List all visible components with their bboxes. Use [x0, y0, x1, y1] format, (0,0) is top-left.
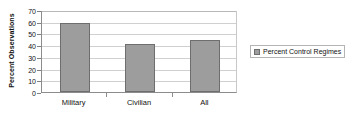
x-axis-tick-marks [41, 93, 237, 97]
y-axis-title: Percent Observations [2, 0, 20, 100]
bar [125, 44, 155, 92]
bar [190, 40, 220, 92]
y-axis-tick-label: 60 [20, 19, 36, 26]
x-axis-category-label: Military [62, 99, 86, 107]
y-axis-tick-label: 0 [20, 90, 36, 97]
chart-legend: Percent Control Regimes [250, 45, 345, 58]
bar [60, 23, 90, 92]
y-axis-tick-label: 70 [20, 8, 36, 15]
legend-swatch-icon [254, 49, 260, 55]
y-axis-tick-label: 40 [20, 43, 36, 50]
legend-item-label: Percent Control Regimes [263, 48, 341, 55]
x-axis-category-label: All [200, 99, 208, 107]
y-axis-tick-label: 30 [20, 54, 36, 61]
x-axis-category-labels: MilitaryCivilianAll [41, 99, 237, 113]
x-axis-tick-mark [106, 93, 107, 97]
y-axis-title-text: Percent Observations [8, 13, 15, 87]
y-axis-tick-label: 50 [20, 31, 36, 38]
y-axis-tick-labels: 010203040506070 [20, 11, 36, 93]
x-axis-tick-mark [172, 93, 173, 97]
y-axis-tick-label: 20 [20, 66, 36, 73]
y-axis-tick-label: 10 [20, 78, 36, 85]
x-axis-category-label: Civilian [127, 99, 151, 107]
plot-area [41, 11, 237, 93]
bars-layer [42, 11, 236, 92]
bar-chart: Percent Observations 010203040506070 Mil… [0, 0, 359, 120]
